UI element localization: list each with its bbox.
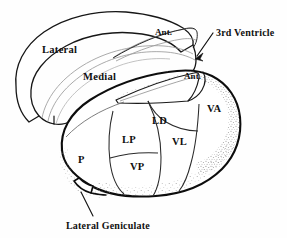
label-third-ventricle: 3rd Ventricle <box>216 27 275 38</box>
label-medial: Medial <box>83 71 116 82</box>
thalamus-diagram: Lateral Medial Ant. Ant. P LP VP LD VL V… <box>0 0 287 238</box>
label-lateral: Lateral <box>42 44 77 55</box>
label-lateral-geniculate: Lateral Geniculate <box>66 220 150 231</box>
label-nucleus-ld: LD <box>152 115 167 126</box>
label-nucleus-p: P <box>78 154 85 165</box>
label-nucleus-va: VA <box>207 103 221 114</box>
label-nucleus-vp: VP <box>130 161 145 172</box>
label-ant-lower: Ant. <box>184 71 201 81</box>
label-nucleus-lp: LP <box>122 134 136 145</box>
label-nucleus-vl: VL <box>172 136 187 147</box>
label-ant-upper: Ant. <box>155 27 172 37</box>
thalamus-diagram-canvas: Lateral Medial Ant. Ant. P LP VP LD VL V… <box>0 0 287 238</box>
